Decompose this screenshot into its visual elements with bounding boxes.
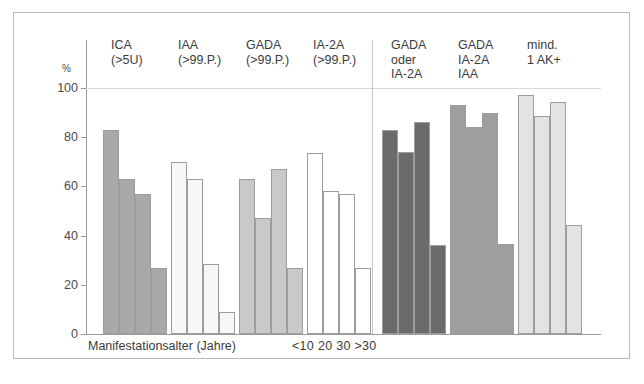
bar [151, 268, 167, 334]
bar [518, 95, 534, 334]
bar-group-mind-1-ak [518, 88, 582, 334]
age-legend: <10 20 30 >30 [292, 339, 377, 353]
x-axis-caption: Manifestationsalter (Jahre) [88, 339, 236, 353]
bar [203, 264, 219, 334]
x-axis-line [86, 334, 601, 335]
bar [498, 244, 514, 334]
bar [534, 116, 550, 334]
bar [187, 179, 203, 334]
bar [550, 102, 566, 334]
bar [430, 245, 446, 334]
bar [466, 127, 482, 334]
bar [239, 179, 255, 334]
bar [450, 105, 466, 334]
bar [566, 225, 582, 334]
bar [339, 194, 355, 334]
bar [135, 194, 151, 334]
bar-group-ia2a [307, 88, 371, 334]
bar [171, 162, 187, 334]
bar [103, 130, 119, 334]
bar [271, 169, 287, 334]
bar [355, 268, 371, 334]
bar [219, 312, 235, 334]
bar [323, 191, 339, 334]
y-tick-mark-0 [81, 334, 86, 335]
bars-layer [0, 0, 644, 334]
bar [307, 153, 323, 334]
bar-group-gada-ia2a-iaa [450, 88, 514, 334]
bar [287, 268, 303, 334]
bar [398, 152, 414, 334]
bar-group-gada [239, 88, 303, 334]
figure-page: % 0 20 40 60 80 100 ICA (>5U) IAA (>99.P… [0, 0, 644, 384]
plot-area: % 0 20 40 60 80 100 ICA (>5U) IAA (>99.P… [0, 0, 644, 384]
bar [414, 122, 430, 334]
bar [119, 179, 135, 334]
bar [482, 113, 498, 334]
bar-group-ica [103, 88, 167, 334]
bar-group-iaa [171, 88, 235, 334]
bar [382, 130, 398, 334]
bar-group-gada-oder-ia2a [382, 88, 446, 334]
bar [255, 218, 271, 334]
